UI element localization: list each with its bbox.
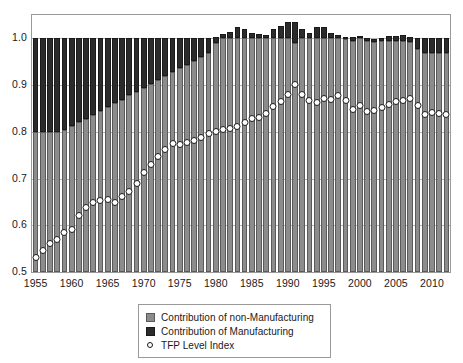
x-tick-label: 1975 (168, 277, 192, 289)
legend-item: Contribution of Manufacturing (146, 324, 323, 338)
legend-label: TFP Level Index (161, 340, 234, 351)
x-tick-label: 1980 (204, 277, 228, 289)
x-tick-label: 2000 (348, 277, 372, 289)
chart-legend: Contribution of non-ManufacturingContrib… (138, 304, 331, 358)
x-tick-label: 1970 (132, 277, 156, 289)
legend-swatch-mfg-icon (146, 327, 155, 336)
legend-label: Contribution of non-Manufacturing (161, 312, 314, 323)
x-tick-label: 2005 (384, 277, 408, 289)
legend-swatch-nonmfg-icon (146, 313, 155, 322)
x-tick-label: 1960 (60, 277, 84, 289)
x-tick-label: 1995 (312, 277, 336, 289)
legend-item: TFP Level Index (146, 338, 323, 352)
x-tick-label: 1990 (276, 277, 300, 289)
x-tick-label: 1955 (24, 277, 48, 289)
tfp-decomposition-chart: 0.50.60.70.80.91.0 195519601965197019751… (0, 0, 463, 363)
legend-label: Contribution of Manufacturing (161, 326, 294, 337)
x-tick-label: 1985 (240, 277, 264, 289)
legend-swatch-tfp-icon (147, 342, 153, 348)
x-tick-label: 1965 (96, 277, 120, 289)
legend-item: Contribution of non-Manufacturing (146, 310, 323, 324)
x-tick-label: 2010 (420, 277, 444, 289)
